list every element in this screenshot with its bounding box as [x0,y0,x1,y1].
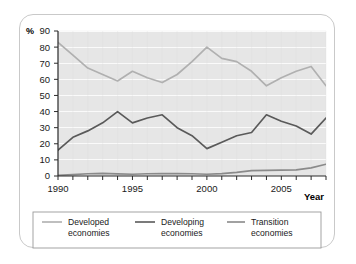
y-tick-label: 80 [39,42,50,53]
x-tick-label: 2005 [271,183,292,194]
y-tick-label: 90 [39,25,50,36]
legend-label-developed-line1: Developed [68,217,109,227]
x-axis-ticks [58,176,326,180]
y-axis-tick-labels: 0102030405060708090 [39,25,50,181]
y-tick-label: 70 [39,58,50,69]
chart-canvas: 0102030405060708090 1990199520002005 % Y… [0,0,356,264]
legend-label-transition-line2: economies [251,228,293,238]
x-axis-title: Year [304,191,324,202]
y-axis-unit-label: % [26,26,34,36]
x-tick-label: 1995 [122,183,143,194]
x-tick-label: 2000 [196,183,217,194]
y-tick-label: 60 [39,74,50,85]
legend-label-transition-line1: Transition [251,217,289,227]
x-axis-tick-labels: 1990199520002005 [47,183,291,194]
y-tick-label: 30 [39,122,50,133]
x-tick-label: 1990 [47,183,68,194]
legend-label-developing-line1: Developing [161,217,204,227]
y-tick-label: 50 [39,90,50,101]
legend-label-developed-line2: economies [68,228,110,238]
y-tick-label: 10 [39,154,50,165]
chart-legend: Developed economies Developing economies… [33,212,321,248]
line-chart: 0102030405060708090 1990199520002005 % Y… [0,0,356,264]
y-tick-label: 20 [39,138,50,149]
y-tick-label: 40 [39,106,50,117]
y-tick-label: 0 [45,170,50,181]
legend-label-developing-line2: economies [161,228,203,238]
